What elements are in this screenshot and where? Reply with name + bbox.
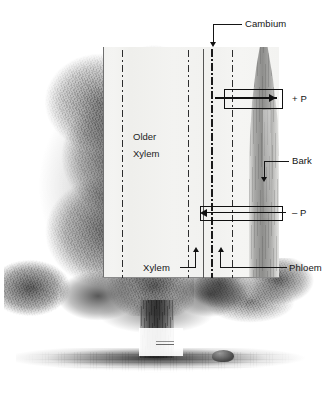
positive-pressure-label: + P: [292, 93, 307, 104]
ground-stipple: [10, 352, 322, 386]
panel-left-edge: [103, 47, 104, 278]
bark-leader-vertical: [264, 161, 265, 178]
cambium-label: Cambium: [245, 18, 286, 29]
xylem-leader-horizontal: [180, 267, 196, 268]
boundary-line-older-xylem-outer: [188, 50, 189, 278]
cambium-layer: [211, 49, 213, 278]
negative-pressure-box: [200, 206, 283, 221]
arrow-up-icon-phloem: [218, 247, 224, 252]
xylem-label: Xylem: [143, 262, 170, 273]
boundary-line-phloem-outer: [232, 50, 233, 278]
negative-pressure-label: – P: [292, 207, 307, 218]
arrow-up-icon-xylem: [193, 247, 199, 252]
phloem-leader-vertical: [220, 252, 221, 268]
phloem-label: Phloem: [289, 262, 322, 273]
bark-leader-horizontal: [264, 161, 289, 162]
older-xylem-label-line1: Older: [133, 130, 156, 143]
panel-bottom-edge: [103, 277, 279, 278]
boundary-line-older-xylem-inner: [122, 50, 123, 278]
arrow-left-icon-negative-pressure: [200, 209, 207, 217]
arrow-right-icon-positive-pressure: [269, 94, 276, 102]
xylem-leader-vertical: [195, 252, 196, 268]
tree-cross-section-figure: Older Xylem Cambium + P Bark – P Xylem P…: [0, 0, 332, 400]
trunk-callout-mark: [156, 338, 174, 345]
older-xylem-label-line2: Xylem: [133, 147, 159, 160]
arrow-down-icon-bark: [261, 177, 267, 182]
bark-label: Bark: [292, 155, 312, 166]
ground-rock: [212, 350, 234, 362]
cambium-leader-horizontal: [213, 24, 242, 25]
positive-pressure-arrow-shaft: [215, 97, 277, 99]
negative-pressure-arrow-shaft: [206, 212, 286, 214]
cambium-leader-vertical: [213, 24, 214, 43]
arrow-down-icon-cambium: [210, 42, 216, 47]
boundary-line-xylem-outer: [203, 49, 204, 278]
phloem-leader-horizontal: [220, 267, 287, 268]
